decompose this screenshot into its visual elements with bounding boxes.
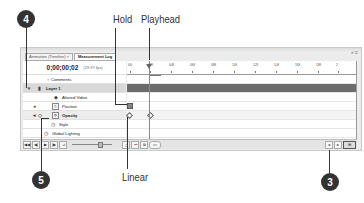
tab-animation-timeline[interactable]: Animation (Timeline) × [25, 53, 73, 61]
scroll-left-button[interactable]: ◂ [325, 141, 333, 149]
first-frame-button[interactable]: ◀◀ [23, 141, 31, 149]
callout-badge-5: 5 [32, 171, 50, 189]
previous-frame-button[interactable]: ◀| [32, 141, 40, 149]
callout-badge-4: 4 [17, 10, 35, 28]
linear-callout-label: Linear [122, 171, 148, 183]
track-position [127, 102, 357, 111]
callout-line-hold [115, 28, 116, 104]
film-icon: ▮ [36, 86, 42, 91]
time-ruler[interactable]: 00 02f 04f 06f 08f 10f 12f 14f 16f 18f 2 [127, 61, 357, 75]
zoom-slider[interactable] [72, 144, 112, 145]
panel-menu-icon[interactable]: « ≡ [351, 49, 358, 55]
callout-line-playhead [149, 28, 150, 60]
hold-keyframe[interactable] [127, 103, 133, 109]
layer-row-altered-video[interactable]: ◆ Altered Video [23, 93, 126, 102]
frames-view-button[interactable]: ▭ [149, 141, 161, 149]
playhead-handle-icon[interactable] [146, 64, 152, 69]
convert-to-frame-animation-button[interactable]: ⊞ [343, 141, 356, 149]
callout-line-4 [26, 28, 27, 88]
callout-line-3 [329, 150, 330, 173]
playhead-callout-label: Playhead [141, 13, 180, 25]
fps-label: (29.97 fps) [83, 65, 102, 70]
playhead-line[interactable] [149, 61, 150, 146]
layer-row-global-lighting[interactable]: ◷ Global Lighting [23, 129, 126, 138]
track-style [127, 120, 357, 129]
video-icon: ◆ [53, 95, 59, 100]
current-timecode[interactable]: 0;00;00;02 [47, 64, 79, 71]
callout-line-5-h [41, 118, 49, 119]
timeline-area[interactable]: 00 02f 04f 06f 08f 10f 12f 14f 16f 18f 2 [127, 61, 357, 140]
track-opacity [127, 111, 357, 120]
layer-row-opacity[interactable]: ◂ ◇ ◷ Opacity [23, 111, 126, 120]
layers-list: 0;00;00;02 (29.97 fps) ▫ Comments ▼ ▮ La… [23, 61, 126, 140]
track-altered-video [127, 93, 357, 102]
callout-line-linear [127, 117, 128, 169]
stopwatch-icon[interactable]: ◷ [52, 112, 59, 119]
bottom-toolbar: ◀◀ ◀| ▶ |▶ ⊿ △ ↩ ⧉ ▭ ◂ ▸ ⊞ [23, 139, 357, 149]
callout-line-5 [41, 118, 42, 171]
track-comments [127, 75, 357, 84]
layer-row-style[interactable]: ◷ Style [23, 120, 126, 129]
track-layer-1[interactable] [127, 84, 357, 93]
layer-row-position[interactable]: ◂ ◷ Position [23, 102, 126, 111]
zoom-slider-knob[interactable] [98, 142, 103, 148]
panel-tabs: Animation (Timeline) × Measurement Log [25, 53, 117, 61]
duplicate-frame-button[interactable]: ⧉ [140, 141, 148, 149]
animation-timeline-panel: « ≡ Animation (Timeline) × Measurement L… [20, 47, 362, 151]
play-button[interactable]: ▶ [41, 141, 49, 149]
add-keyframe-icon[interactable]: ◇ [37, 113, 43, 118]
work-area-end[interactable] [356, 61, 357, 146]
style-icon: ◷ [50, 122, 56, 127]
audio-button[interactable]: ⊿ [59, 141, 67, 149]
tab-measurement-log[interactable]: Measurement Log [74, 53, 116, 61]
next-frame-button[interactable]: |▶ [50, 141, 58, 149]
track-global-lighting [127, 129, 357, 138]
layer-row-comments[interactable]: ▫ Comments [23, 75, 126, 84]
lighting-icon: ◷ [43, 131, 49, 136]
scroll-right-button[interactable]: ▸ [334, 141, 342, 149]
layer-row-layer-1[interactable]: ▼ ▮ Layer 1 [23, 84, 126, 93]
hold-callout-label: Hold [113, 13, 132, 25]
tween-button[interactable]: △ [122, 141, 130, 149]
stopwatch-icon[interactable]: ◷ [52, 103, 59, 110]
convert-button[interactable]: ↩ [131, 141, 139, 149]
keyframe-nav-icon[interactable]: ◂ [31, 104, 37, 109]
callout-line-hold-h [115, 104, 127, 105]
callout-badge-3: 3 [321, 173, 339, 191]
